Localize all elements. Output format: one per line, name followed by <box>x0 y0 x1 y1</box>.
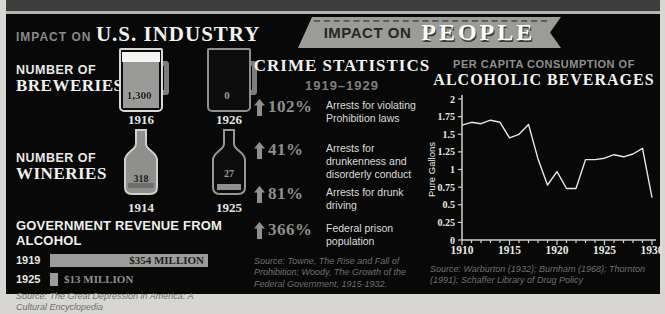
stat-row-prohibition-arrests: 102% Arrests for violating Prohibition l… <box>254 97 432 125</box>
svg-text:0.75: 0.75 <box>438 182 456 193</box>
stat-row-drunk-driving-arrests: 81% Arrests for drunk driving <box>254 184 432 212</box>
breweries-year-1916: 1916 <box>110 112 172 128</box>
breweries-count-1926: 0 <box>207 89 247 101</box>
svg-text:1.75: 1.75 <box>438 111 456 122</box>
svg-text:2: 2 <box>450 94 455 105</box>
stat-row-drunkenness-arrests: 41% Arrests for drunkenness and disorder… <box>254 140 432 181</box>
svg-text:1930: 1930 <box>641 244 663 256</box>
stat-description: Arrests for violating Prohibition laws <box>326 97 418 125</box>
chart-source: Source: Warburton (1932); Burnham (1968)… <box>430 264 662 287</box>
brewery-1926: 0 1926 <box>198 48 260 128</box>
breweries-label-line2: BREWERIES <box>16 77 111 95</box>
revenue-year: 1919 <box>16 254 50 266</box>
wineries-count-1925: 27 <box>206 168 252 179</box>
consumption-line-chart: 00.250.50.7511.251.51.752191019151920192… <box>424 88 662 260</box>
revenue-year: 1925 <box>16 273 50 285</box>
up-arrow-icon <box>254 222 265 239</box>
top-bar <box>6 0 660 14</box>
stat-percentage: 102% <box>268 97 313 117</box>
wineries-label-line2: WINERIES <box>16 165 111 183</box>
svg-text:1915: 1915 <box>498 244 521 256</box>
full-wine-bottle-icon: 318 <box>118 128 164 196</box>
revenue-title: GOVERNMENT REVENUE FROM ALCOHOL <box>16 218 248 248</box>
breweries-label: NUMBER OF BREWERIES <box>16 64 111 95</box>
breweries-count-1916: 1,300 <box>119 89 159 101</box>
svg-text:1910: 1910 <box>451 244 474 256</box>
government-revenue-section: GOVERNMENT REVENUE FROM ALCOHOL 1919 $35… <box>16 218 248 314</box>
chart-title-main: ALCOHOLIC BEVERAGES <box>430 71 658 89</box>
stat-percentage: 366% <box>268 220 313 240</box>
svg-text:0.5: 0.5 <box>443 199 456 210</box>
revenue-amount: $13 MILLION <box>58 273 137 285</box>
industry-title-main: U.S. INDUSTRY <box>96 22 261 46</box>
stat-percentage: 81% <box>268 184 304 204</box>
revenue-bar: $354 MILLION <box>50 254 208 267</box>
revenue-row-1925: 1925 $13 MILLION <box>16 272 248 286</box>
stat-percentage: 41% <box>268 140 304 160</box>
wineries-label: NUMBER OF WINERIES <box>16 152 111 183</box>
consumption-chart-header: PER CAPITA CONSUMPTION OF ALCOHOLIC BEVE… <box>430 58 658 89</box>
crime-source: Source: Towne, The Rise and Fall of Proh… <box>254 256 426 290</box>
wineries-year-1914: 1914 <box>110 200 172 216</box>
industry-section-title: IMPACT ON U.S. INDUSTRY <box>16 22 260 47</box>
winery-1914: 318 1914 <box>110 128 172 216</box>
svg-text:1: 1 <box>450 164 455 175</box>
impact-on-people-banner: IMPACT ON PEOPLE <box>298 17 561 48</box>
crime-statistics-header: CRIME STATISTICS 1919–1929 <box>252 56 432 93</box>
empty-wine-bottle-icon: 27 <box>206 128 252 196</box>
svg-text:1.5: 1.5 <box>443 129 456 140</box>
full-beer-mug-icon: 1,300 <box>119 48 163 108</box>
svg-text:Pure Gallons: Pure Gallons <box>426 142 437 197</box>
chart-title-prefix: PER CAPITA CONSUMPTION OF <box>430 58 658 71</box>
stat-row-federal-prison: 366% Federal prison population <box>254 220 432 248</box>
industry-title-prefix: IMPACT ON <box>16 30 91 44</box>
wineries-year-1925: 1925 <box>198 200 260 216</box>
breweries-year-1926: 1926 <box>198 112 260 128</box>
stat-description: Arrests for drunk driving <box>326 184 418 212</box>
svg-text:1925: 1925 <box>593 244 616 256</box>
crime-statistics-title: CRIME STATISTICS <box>252 56 432 76</box>
svg-text:0.25: 0.25 <box>438 217 456 228</box>
revenue-bar <box>50 273 58 286</box>
revenue-row-1919: 1919 $354 MILLION <box>16 253 248 267</box>
stat-description: Arrests for drunkenness and disorderly c… <box>326 140 426 181</box>
up-arrow-icon <box>254 142 265 159</box>
banner-title: PEOPLE <box>421 19 535 46</box>
up-arrow-icon <box>254 186 265 203</box>
industry-source: Source: The Great Depression in America:… <box>16 291 226 314</box>
line-chart-svg: 00.250.50.7511.251.51.752191019151920192… <box>424 88 662 260</box>
empty-beer-mug-icon: 0 <box>207 48 251 108</box>
banner-prefix: IMPACT ON <box>324 24 412 41</box>
svg-text:1.25: 1.25 <box>438 146 456 157</box>
wineries-pictogram-group: 318 1914 27 1925 <box>110 128 260 216</box>
brewery-1916: 1,300 1916 <box>110 48 172 128</box>
up-arrow-icon <box>254 99 265 116</box>
breweries-pictogram-group: 1,300 1916 0 1926 <box>110 48 260 128</box>
stat-description: Federal prison population <box>326 220 418 248</box>
crime-statistics-years: 1919–1929 <box>252 78 432 93</box>
revenue-amount: $354 MILLION <box>129 254 208 266</box>
winery-1925: 27 1925 <box>198 128 260 216</box>
infographic-panel: IMPACT ON U.S. INDUSTRY NUMBER OF BREWER… <box>6 0 660 294</box>
wineries-count-1914: 318 <box>118 173 164 184</box>
svg-text:1920: 1920 <box>546 244 569 256</box>
